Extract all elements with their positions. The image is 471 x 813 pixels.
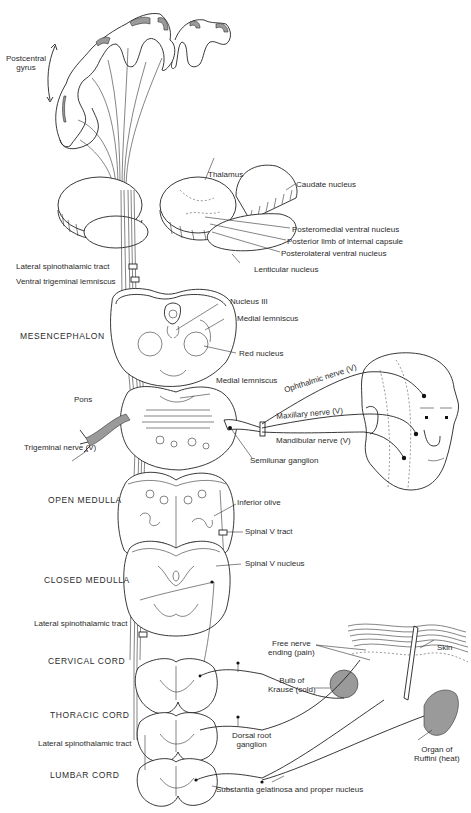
label-lateral-spinothalamic-tract-middle: Lateral spinothalamic tract bbox=[34, 619, 127, 628]
label-inferior-olive: Inferior olive bbox=[237, 498, 281, 507]
label-postcentral-gyrus: Postcentral gyrus bbox=[6, 54, 46, 72]
level-thoracic-cord: THORACIC CORD bbox=[50, 711, 130, 720]
label-bulb-of-krause: Bulb of Krause (cold) bbox=[268, 676, 316, 694]
label-ventral-trigeminal-lemniscus: Ventral trigeminal lemniscus bbox=[16, 277, 116, 286]
thalamus-sections bbox=[58, 158, 297, 263]
label-mandibular-nerve: Mandibular nerve (V) bbox=[276, 436, 351, 445]
label-trigeminal-nerve: Trigeminal nerve (V) bbox=[24, 443, 96, 452]
level-lumbar-cord: LUMBAR CORD bbox=[50, 771, 119, 780]
pons-section bbox=[72, 387, 265, 470]
label-posterior-limb-internal-capsule: Posterior limb of internal capsule bbox=[287, 237, 403, 246]
label-red-nucleus: Red nucleus bbox=[239, 349, 283, 358]
cerebral-cortex bbox=[47, 13, 231, 190]
level-pons: Pons bbox=[74, 395, 92, 404]
face-drawing bbox=[362, 353, 459, 490]
mesencephalon-section bbox=[111, 289, 237, 387]
label-lateral-spinothalamic-tract-lower: Lateral spinothalamic tract bbox=[38, 739, 131, 748]
label-caudate-nucleus: Caudate nucleus bbox=[296, 180, 356, 189]
label-lenticular-nucleus: Lenticular nucleus bbox=[254, 265, 318, 274]
label-semilunar-ganglion: Semilunar ganglion bbox=[250, 456, 319, 465]
label-spinal-v-tract: Spinal V tract bbox=[245, 527, 293, 536]
label-dorsal-root-ganglion: Dorsal root ganglion bbox=[232, 731, 271, 749]
label-thalamus: Thalamus bbox=[208, 170, 243, 179]
level-open-medulla: OPEN MEDULLA bbox=[48, 496, 122, 505]
anatomical-diagram bbox=[0, 0, 471, 813]
label-organ-of-ruffini: Organ of Ruffini (heat) bbox=[414, 745, 460, 763]
label-medial-lemniscus-mesencephalon: Medial lemniscus bbox=[237, 314, 298, 323]
label-nucleus-iii: Nucleus III bbox=[230, 297, 268, 306]
level-cervical-cord: CERVICAL CORD bbox=[48, 657, 125, 666]
label-substantia-gelatinosa: Substantia gelatinosa and proper nucleus bbox=[216, 785, 363, 794]
label-lateral-spinothalamic-tract-upper: Lateral spinothalamic tract bbox=[16, 262, 109, 271]
level-closed-medulla: CLOSED MEDULLA bbox=[44, 576, 130, 585]
label-posterolateral-ventral-nucleus: Posterolateral ventral nucleus bbox=[281, 249, 386, 258]
label-posteromedial-ventral-nucleus: Posteromedial ventral nucleus bbox=[292, 225, 399, 234]
label-medial-lemniscus-pons: Medial lemniscus bbox=[216, 376, 277, 385]
label-skin: Skin bbox=[437, 643, 453, 652]
label-free-nerve-ending: Free nerve ending (pain) bbox=[268, 639, 315, 657]
label-spinal-v-nucleus: Spinal V nucleus bbox=[245, 559, 305, 568]
level-mesencephalon: MESENCEPHALON bbox=[20, 332, 105, 341]
